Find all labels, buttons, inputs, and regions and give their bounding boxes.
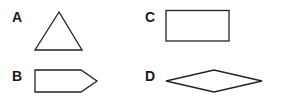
pentagon-shape-b <box>35 70 97 92</box>
rhombus-shape-d <box>166 70 262 92</box>
option-label-a: A <box>12 10 22 24</box>
option-label-d: D <box>145 69 155 83</box>
shape-options-figure: A B C D <box>0 0 281 106</box>
rectangle-shape-c <box>166 11 229 42</box>
option-label-b: B <box>12 69 22 83</box>
shapes-canvas <box>0 0 281 106</box>
triangle-shape-a <box>35 12 82 50</box>
option-label-c: C <box>145 10 155 24</box>
